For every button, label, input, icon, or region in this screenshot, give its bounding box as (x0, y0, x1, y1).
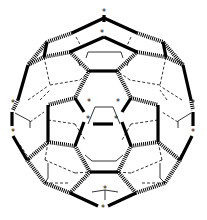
dash-bond (162, 112, 178, 122)
hatch-bond (70, 172, 90, 193)
hatch-bond (28, 57, 44, 65)
bold-bond (183, 65, 191, 100)
hatch-bond (117, 52, 137, 71)
hatch-bond (48, 142, 75, 146)
star-marker-icon: * (191, 99, 195, 108)
bold-bond (70, 37, 104, 52)
hatch-bond (70, 52, 89, 71)
bold-bond (180, 136, 192, 160)
bold-bond (104, 37, 137, 52)
dash-bond (131, 160, 162, 173)
hatch-bond (137, 52, 166, 57)
hatch-bond (136, 183, 165, 193)
hatch-bond (118, 172, 136, 193)
hatch-bond (75, 146, 90, 172)
hatch-bond (27, 142, 48, 160)
star-marker-icon: * (101, 204, 105, 213)
hatch-bond (165, 160, 180, 183)
hatch-bond (118, 146, 131, 172)
bold-bond (18, 65, 28, 100)
star-marker-icon: * (114, 115, 118, 124)
dash-bond (160, 90, 167, 100)
star-marker-icon: * (116, 98, 120, 107)
star-marker-icon: * (191, 128, 195, 137)
bold-bond (122, 98, 131, 112)
hatch-bond (131, 98, 158, 105)
hatch-bond (27, 160, 45, 183)
dash-bond (30, 112, 44, 122)
hatch-bond (131, 142, 158, 146)
fullerene-diagram: ************ Fullerene C60 bond diagram (0, 0, 207, 220)
dash-bond (160, 86, 182, 100)
dash-bond (48, 120, 75, 124)
star-marker-icon: * (103, 185, 107, 194)
star-marker-icon: * (11, 99, 15, 108)
dash-bond (28, 86, 48, 100)
dash-bond (160, 57, 166, 85)
star-marker-icon: * (102, 8, 106, 17)
star-marker-icon: * (11, 128, 15, 137)
bold-bond (75, 98, 84, 112)
hatch-bond (48, 98, 75, 105)
bold-bond (44, 42, 47, 57)
star-marker-icon: * (87, 98, 91, 107)
star-marker-icon: * (86, 115, 90, 124)
thin-bond (85, 155, 92, 161)
bold-bond (104, 18, 137, 33)
bold-bond (108, 193, 136, 206)
dash-bond (131, 120, 158, 124)
fullerene-structure-svg: ************ (0, 0, 207, 220)
hatch-bond (45, 183, 70, 193)
hatch-bond (47, 33, 72, 42)
star-marker-icon: * (100, 29, 104, 38)
hatch-bond (137, 33, 163, 42)
dash-bond (44, 57, 50, 85)
hatch-bond (117, 71, 131, 98)
bold-bond (70, 193, 98, 206)
thin-bond (121, 52, 123, 58)
hatch-bond (44, 52, 70, 57)
dash-bond (40, 90, 50, 100)
hatch-bond (166, 57, 183, 65)
hatch-bond (75, 71, 89, 98)
thin-bond (178, 113, 191, 121)
thin-bond (15, 113, 30, 121)
dash-bond (130, 80, 160, 85)
dash-bond (50, 80, 80, 85)
bold-bond (13, 136, 27, 160)
bold-bonds (12, 15, 193, 206)
dash-bond (45, 160, 75, 173)
thin-bond (86, 52, 88, 58)
